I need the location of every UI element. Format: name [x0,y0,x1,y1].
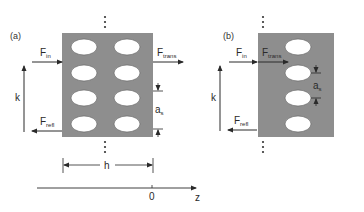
panel-b-label: (b) [223,31,234,41]
continuation-dots-bottom-a [104,141,106,153]
k-label-a: k [15,92,21,103]
f-in-label-b: Fin [236,47,247,59]
f-trans-label-a: Ftrans [157,47,176,59]
figure-canvas: (a) Fin Ftrans Frefl [0,0,364,212]
f-in-label-a: Fin [40,47,51,59]
panel-b: (b) Fin Ftrans Frefl k [211,16,334,153]
continuation-dots-top-a [104,16,106,28]
k-label-b: k [211,92,217,103]
z-axis-label: z [195,192,200,203]
continuation-dots-bottom-b [262,141,264,153]
spacing-label-a: as [155,104,164,116]
width-label-h: h [104,160,110,171]
panel-a: (a) Fin Ftrans Frefl [10,16,183,173]
f-refl-label-b: Frefl [234,115,248,127]
f-refl-label-a: Frefl [40,116,54,128]
z-origin-label: 0 [149,191,155,202]
z-axis: 0 z [37,185,200,203]
panel-a-label: (a) [10,31,21,41]
continuation-dots-top-b [262,16,264,28]
